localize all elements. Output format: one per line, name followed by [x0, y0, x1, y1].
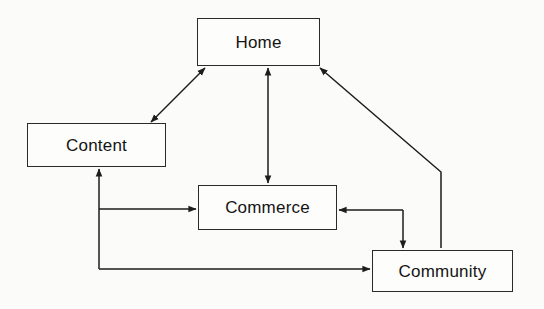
edge-community-home: [320, 68, 441, 248]
edge-home-content: [151, 68, 205, 122]
node-content-label: Content: [66, 137, 127, 154]
node-commerce-label: Commerce: [225, 199, 310, 216]
node-community[interactable]: Community: [372, 250, 513, 292]
node-home[interactable]: Home: [197, 18, 320, 66]
node-content[interactable]: Content: [27, 123, 166, 167]
node-commerce[interactable]: Commerce: [198, 185, 337, 230]
node-community-label: Community: [399, 263, 487, 280]
node-home-label: Home: [235, 34, 281, 51]
diagram-canvas: Home Content Commerce Community: [0, 0, 544, 309]
